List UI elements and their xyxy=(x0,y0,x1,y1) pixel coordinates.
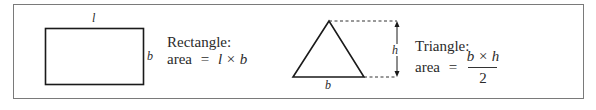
triangle-denominator: 2 xyxy=(466,70,500,87)
triangle-title: Triangle: xyxy=(415,38,469,55)
rectangle-length-label: l xyxy=(92,11,95,26)
rectangle-shape xyxy=(46,29,144,85)
rectangle-formula: area = l × b xyxy=(167,51,247,68)
arrow-up-icon xyxy=(395,21,400,27)
shapes-canvas xyxy=(0,0,596,110)
triangle-formula: area = xyxy=(415,59,462,76)
triangle-equals: = xyxy=(449,59,457,75)
triangle-area-label: area xyxy=(415,59,440,75)
triangle-height-label: h xyxy=(392,43,398,58)
rectangle-title: Rectangle: xyxy=(167,34,231,51)
triangle-numerator: b × h xyxy=(466,48,500,65)
rectangle-area-formula: l × b xyxy=(218,51,247,67)
triangle-shape xyxy=(293,21,364,77)
rectangle-breadth-label: b xyxy=(147,49,153,64)
rectangle-equals: = xyxy=(201,51,209,67)
triangle-base-label: b xyxy=(325,78,331,93)
arrow-down-icon xyxy=(395,71,400,77)
rectangle-area-label: area xyxy=(167,51,192,67)
